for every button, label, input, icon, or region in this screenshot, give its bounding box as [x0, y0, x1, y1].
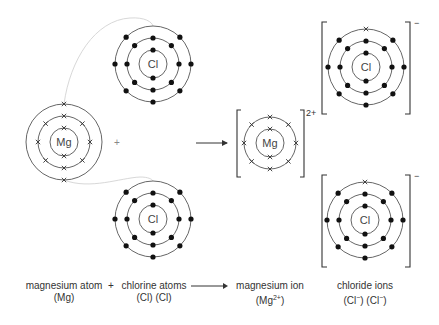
- electron-dot: [388, 217, 393, 222]
- electron-dot: [362, 191, 367, 196]
- electron-dot: [176, 61, 181, 66]
- electron-dot: [344, 199, 349, 204]
- electron-dot: [401, 64, 406, 69]
- electron-cross: [249, 159, 253, 163]
- electron-dot: [336, 217, 341, 222]
- electron-dot: [150, 87, 155, 92]
- electron-cross: [249, 122, 253, 126]
- electron-dot: [150, 35, 155, 40]
- formula-superscript: 2+: [273, 294, 281, 301]
- electron-cross: [286, 122, 290, 126]
- element-symbol: Cl: [148, 58, 158, 70]
- electron-dot: [390, 38, 395, 43]
- formula-text: ) (Cl: [360, 295, 379, 306]
- electron-dot: [132, 198, 137, 203]
- label-plus: +: [108, 280, 114, 292]
- bracket-left-mg-ion: [237, 110, 241, 177]
- chloride-ion-top: Cl: [325, 27, 406, 108]
- chlorine-atom-bottom: Cl: [112, 181, 193, 260]
- electron-dot: [124, 216, 129, 221]
- electron-dot: [177, 35, 182, 40]
- label-chloride-ions-formula: (Cl−) (Cl−): [330, 292, 400, 307]
- electron-dot: [337, 38, 342, 43]
- formula-text: ): [281, 295, 284, 306]
- plus-sign: +: [114, 137, 120, 148]
- electron-dot: [363, 78, 368, 83]
- electron-dot: [169, 80, 174, 85]
- electron-dot: [169, 198, 174, 203]
- label-magnesium-ion: magnesium ion (Mg2+): [233, 280, 307, 307]
- magnesium-atom: Mg: [26, 102, 102, 182]
- electron-cross: [286, 159, 290, 163]
- equation-arrow: [190, 281, 230, 291]
- electron-dot: [112, 61, 117, 66]
- element-symbol: Cl: [148, 213, 158, 225]
- electron-cross: [43, 158, 47, 162]
- element-symbol: Cl: [360, 214, 370, 226]
- electron-dot: [150, 202, 155, 207]
- electron-cross: [80, 158, 84, 162]
- cl-ion-bottom-charge: −: [414, 171, 419, 181]
- label-chloride-ions: chloride ions (Cl−) (Cl−): [330, 280, 400, 307]
- electron-dot: [381, 236, 386, 241]
- electron-dot: [177, 88, 182, 93]
- electron-dot: [363, 38, 368, 43]
- mg-ion-charge: 2+: [306, 108, 316, 118]
- label-magnesium-atom-name: magnesium atom: [22, 280, 106, 292]
- label-chlorine-atoms: chlorine atoms (Cl) (Cl): [119, 280, 189, 304]
- electron-dot: [325, 64, 330, 69]
- electron-dot: [362, 255, 367, 260]
- electron-dot: [124, 243, 129, 248]
- electron-dot: [132, 43, 137, 48]
- electron-dot: [150, 75, 155, 80]
- element-symbol: Mg: [262, 137, 277, 149]
- electron-dot: [362, 243, 367, 248]
- bracket-right-cl-ion-bottom: [405, 175, 410, 267]
- formula-text: (Cl: [343, 295, 356, 306]
- electron-dot: [150, 190, 155, 195]
- electron-dot: [382, 46, 387, 51]
- electron-dot: [389, 244, 394, 249]
- electron-dot: [363, 102, 368, 107]
- electron-dot: [124, 190, 129, 195]
- electron-dot: [132, 80, 137, 85]
- electron-dot: [381, 199, 386, 204]
- electron-dot: [124, 88, 129, 93]
- electron-cross: [43, 121, 47, 125]
- chloride-ion-bottom: Cl: [324, 180, 405, 261]
- electron-dot: [150, 230, 155, 235]
- label-magnesium-atom-formula: (Mg): [22, 292, 106, 304]
- electron-dot: [150, 242, 155, 247]
- electron-dot: [390, 91, 395, 96]
- label-magnesium-atom: magnesium atom (Mg): [22, 280, 106, 304]
- electron-dot: [177, 243, 182, 248]
- label-chlorine-atoms-formula: (Cl) (Cl): [119, 292, 189, 304]
- electron-dot: [389, 64, 394, 69]
- electron-dot: [150, 99, 155, 104]
- electron-dot: [345, 46, 350, 51]
- electron-dot: [363, 90, 368, 95]
- electron-dot: [124, 61, 129, 66]
- electron-dot: [112, 216, 117, 221]
- electron-dot: [389, 191, 394, 196]
- electron-dot: [382, 83, 387, 88]
- electron-dot: [176, 216, 181, 221]
- formula-text: (Mg: [256, 295, 273, 306]
- label-chloride-ions-name: chloride ions: [330, 280, 400, 292]
- electron-dot: [337, 64, 342, 69]
- electron-dot: [400, 217, 405, 222]
- electron-dot: [188, 61, 193, 66]
- magnesium-ion: Mg: [242, 115, 298, 171]
- electron-dot: [132, 235, 137, 240]
- electron-dot: [362, 231, 367, 236]
- electron-dot: [177, 190, 182, 195]
- electron-dot: [363, 50, 368, 55]
- electron-dot: [188, 216, 193, 221]
- formula-text: ): [383, 295, 386, 306]
- cl-ion-top-charge: −: [414, 18, 419, 28]
- label-magnesium-ion-formula: (Mg2+): [233, 292, 307, 307]
- label-chlorine-atoms-name: chlorine atoms: [119, 280, 189, 292]
- electron-dot: [345, 83, 350, 88]
- electron-dot: [344, 236, 349, 241]
- electron-dot: [150, 254, 155, 259]
